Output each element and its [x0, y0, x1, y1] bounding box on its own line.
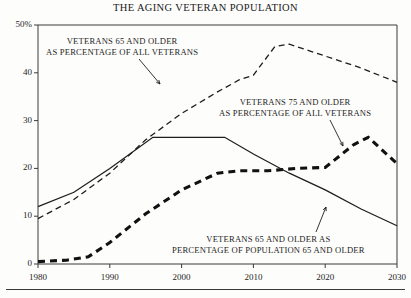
x-axis-tick-label: 2030 [374, 272, 411, 282]
annotation-leader-line [330, 120, 343, 146]
y-axis-tick-label: 50% [2, 19, 32, 29]
annotation-line: VETERANS 75 AND OLDER [219, 97, 371, 108]
annotation-line: VETERANS 65 AND OLDER [46, 36, 198, 47]
x-axis-tick-label: 2010 [230, 272, 276, 282]
x-axis-tick-label: 2020 [302, 272, 348, 282]
y-axis-tick-label: 10 [2, 210, 32, 220]
annotation-veterans-65-population-65: VETERANS 65 AND OLDER ASPERCENTAGE OF PO… [172, 234, 365, 255]
annotation-veterans-65-all-veterans: VETERANS 65 AND OLDERAS PERCENTAGE OF AL… [46, 36, 198, 57]
x-axis-tick-label: 1990 [87, 272, 133, 282]
y-axis-tick-label: 30 [2, 115, 32, 125]
series-line-0 [38, 44, 397, 218]
annotation-line: PERCENTAGE OF POPULATION 65 AND OLDER [172, 245, 365, 256]
annotation-leader-line [316, 207, 326, 232]
annotation-line: AS PERCENTAGE OF ALL VETERANS [219, 108, 371, 119]
source-note [7, 291, 407, 298]
y-axis-tick-label: 20 [2, 162, 32, 172]
x-axis-ticks [38, 264, 397, 268]
y-axis-ticks [34, 25, 38, 264]
annotation-veterans-75-all-veterans: VETERANS 75 AND OLDERAS PERCENTAGE OF AL… [219, 97, 371, 118]
y-axis-tick-label: 40 [2, 67, 32, 77]
chart-container: THE AGING VETERAN POPULATION 01020304050… [0, 0, 411, 298]
annotation-leader-line [139, 59, 160, 84]
source-divider [6, 289, 405, 290]
x-axis-tick-label: 2000 [159, 272, 205, 282]
y-axis-tick-label: 0 [2, 258, 32, 268]
x-axis-tick-label: 1980 [15, 272, 61, 282]
data-series-layer [38, 44, 397, 261]
annotation-line: VETERANS 65 AND OLDER AS [172, 234, 365, 245]
series-line-2 [38, 137, 397, 225]
annotation-line: AS PERCENTAGE OF ALL VETERANS [46, 47, 198, 58]
annotation-leader-lines [139, 59, 343, 232]
